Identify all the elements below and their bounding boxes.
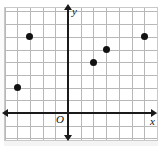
gridline-horizontal (5, 24, 157, 25)
data-point (14, 84, 21, 91)
x-axis-arrow-left-icon (2, 109, 8, 117)
gridline-vertical (81, 8, 82, 140)
gridline-vertical (132, 8, 133, 140)
y-axis-label: y (72, 6, 77, 17)
data-point (141, 33, 148, 40)
x-axis (6, 112, 152, 114)
y-axis-arrow-down-icon (64, 135, 72, 141)
scan-edge-bottom (4, 141, 158, 146)
gridline-horizontal (5, 50, 157, 51)
y-axis (67, 9, 69, 137)
gridline-horizontal (5, 11, 157, 12)
gridline-vertical (144, 8, 145, 140)
gridline-vertical (119, 8, 120, 140)
gridline-horizontal (5, 126, 157, 127)
coordinate-plane-figure: y x O (0, 0, 162, 152)
gridline-vertical (93, 8, 94, 140)
gridline-vertical (43, 8, 44, 140)
gridline-horizontal (5, 100, 157, 101)
gridline-vertical (5, 8, 6, 140)
data-point (90, 59, 97, 66)
x-axis-label: x (150, 116, 155, 127)
grid (5, 8, 157, 140)
gridline-vertical (106, 8, 107, 140)
gridline-vertical (30, 8, 31, 140)
gridline-vertical (17, 8, 18, 140)
gridline-horizontal (5, 62, 157, 63)
origin-label: O (56, 114, 64, 125)
gridline-horizontal (5, 138, 157, 139)
gridline-horizontal (5, 75, 157, 76)
gridline-horizontal (5, 88, 157, 89)
y-axis-arrow-up-icon (64, 4, 72, 10)
data-point (103, 46, 110, 53)
